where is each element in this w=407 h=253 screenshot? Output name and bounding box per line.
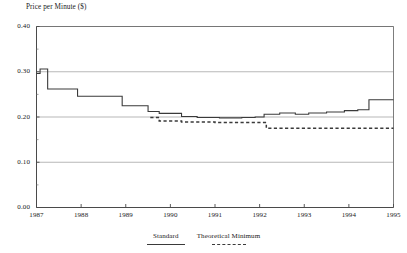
legend-item-label: Theoretical Minimum <box>197 232 261 241</box>
legend-item-label: Standard <box>153 232 179 241</box>
y-axis-tick-label: 0.30 <box>4 67 30 75</box>
x-axis-tick-label: 1991 <box>195 211 235 219</box>
x-axis-tick-label: 1992 <box>240 211 280 219</box>
legend-item: Standard <box>147 232 185 249</box>
chart-series-line-2 <box>150 117 393 128</box>
chart-container: Price per Minute ($) 0.000.100.200.300.4… <box>0 0 407 253</box>
x-axis-tick-label: 1990 <box>150 211 190 219</box>
x-axis-tick-label: 1988 <box>61 211 101 219</box>
x-axis-tick-label: 1993 <box>284 211 324 219</box>
x-axis-tick-label: 1987 <box>17 211 57 219</box>
x-axis-tick-label: 1995 <box>374 211 407 219</box>
chart-series-line-1 <box>37 69 394 118</box>
chart-legend: StandardTheoretical Minimum <box>0 232 407 249</box>
x-axis-tick-label: 1994 <box>329 211 369 219</box>
x-axis-tick-label: 1989 <box>106 211 146 219</box>
y-axis-tick-label: 0.10 <box>4 158 30 166</box>
legend-swatch-dashed <box>212 244 246 249</box>
y-axis-tick-label: 0.20 <box>4 113 30 121</box>
chart-axis-title: Price per Minute ($) <box>26 3 86 11</box>
y-axis-tick-label: 0.40 <box>4 22 30 30</box>
legend-swatch-solid <box>147 244 185 249</box>
legend-item: Theoretical Minimum <box>197 232 261 249</box>
